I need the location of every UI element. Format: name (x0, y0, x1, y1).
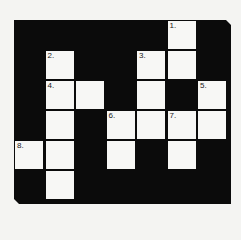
clue-number: 5. (200, 82, 207, 90)
crossword-cell[interactable] (168, 51, 196, 79)
crossword-cell[interactable] (46, 111, 74, 139)
clue-number: 8. (17, 142, 24, 150)
crossword-grid: 1.2.3.4.5.6.7.8. (14, 20, 231, 204)
clue-number: 7. (170, 112, 177, 120)
clue-number: 2. (48, 52, 55, 60)
crossword-cell[interactable]: 4. (46, 81, 74, 109)
crossword-cell[interactable] (137, 111, 165, 139)
crossword-cell[interactable] (46, 141, 74, 169)
clue-number: 3. (139, 52, 146, 60)
clue-number: 4. (48, 82, 55, 90)
crossword-cell[interactable]: 7. (168, 111, 196, 139)
crossword-cell[interactable]: 3. (137, 51, 165, 79)
crossword-cell[interactable]: 5. (198, 81, 226, 109)
crossword-cell[interactable] (168, 141, 196, 169)
crossword-cell[interactable]: 2. (46, 51, 74, 79)
clue-number: 6. (109, 112, 116, 120)
crossword-cell[interactable] (46, 171, 74, 199)
crossword-cell[interactable] (76, 81, 104, 109)
crossword-cell[interactable] (107, 141, 135, 169)
crossword-cell[interactable] (137, 81, 165, 109)
crossword-cell[interactable]: 1. (168, 21, 196, 49)
crossword-cell[interactable]: 6. (107, 111, 135, 139)
crossword-cell[interactable]: 8. (15, 141, 43, 169)
clue-number: 1. (170, 22, 177, 30)
crossword-cell[interactable] (198, 111, 226, 139)
